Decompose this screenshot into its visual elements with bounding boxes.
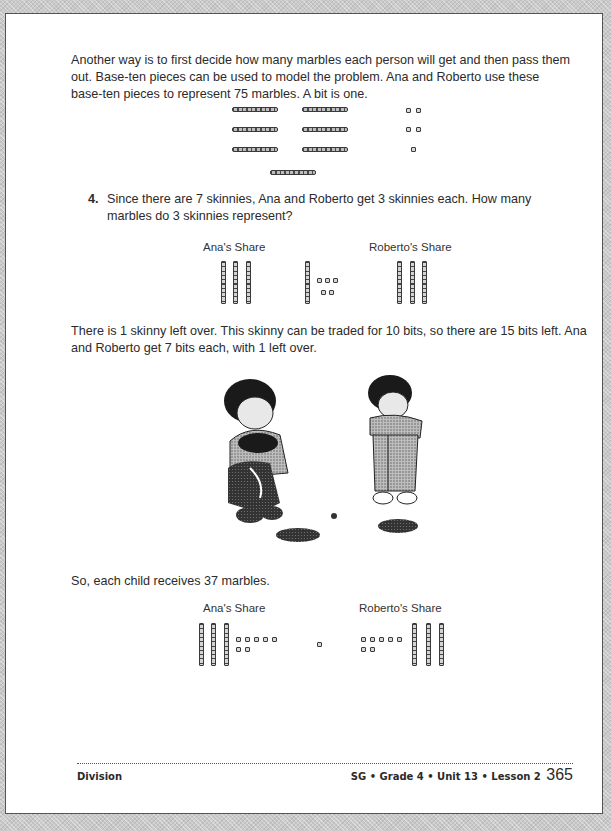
bit-piece	[254, 637, 259, 642]
ana-share-label: Ana's Share	[203, 241, 265, 253]
skinny-piece	[232, 147, 278, 152]
skinny-piece	[270, 170, 316, 175]
bit-piece	[370, 637, 375, 642]
bit-piece	[329, 290, 334, 295]
leftover-bit	[317, 642, 322, 647]
skinny-piece	[221, 261, 226, 304]
roberto-share-label: Roberto's Share	[369, 241, 452, 253]
question-text: Since there are 7 skinnies, Ana and Robe…	[107, 191, 577, 225]
bit-piece	[370, 647, 375, 652]
page-number: 365	[546, 766, 573, 783]
bit-piece	[245, 647, 250, 652]
bit-piece	[245, 637, 250, 642]
skinny-piece	[410, 261, 415, 304]
bit-piece	[236, 647, 241, 652]
skinny-piece	[232, 107, 278, 112]
bit-piece	[406, 127, 411, 132]
bit-piece	[406, 108, 411, 113]
roberto-share-label-2: Roberto's Share	[359, 602, 442, 614]
roberto-figure	[368, 375, 422, 504]
bit-piece	[416, 108, 421, 113]
bit-piece	[361, 647, 366, 652]
skinny-piece	[426, 623, 431, 666]
skinny-piece	[439, 623, 444, 666]
bit-piece	[388, 637, 393, 642]
bit-piece	[272, 637, 277, 642]
footer-course-text: SG • Grade 4 • Unit 13 • Lesson 2	[351, 771, 541, 782]
skinny-piece	[199, 623, 204, 666]
skinny-piece	[422, 261, 427, 304]
skinny-piece	[302, 107, 348, 112]
footer-course-info: SG • Grade 4 • Unit 13 • Lesson 2 365	[351, 766, 573, 784]
skinny-piece	[246, 261, 251, 304]
bit-piece	[397, 637, 402, 642]
skinny-piece	[302, 147, 348, 152]
bit-piece	[416, 127, 421, 132]
bit-piece	[325, 278, 330, 283]
skinny-piece	[233, 261, 238, 304]
ana-figure	[224, 379, 288, 523]
bit-piece	[379, 637, 384, 642]
skinny-piece	[224, 623, 229, 666]
bit-piece	[333, 278, 338, 283]
skinny-piece	[302, 127, 348, 132]
conclusion-paragraph: So, each child receives 37 marbles.	[71, 573, 471, 590]
bit-piece	[361, 637, 366, 642]
footer-divider	[77, 763, 573, 764]
question-number: 4.	[88, 191, 99, 208]
skinny-piece	[305, 261, 310, 304]
marble-piles	[276, 513, 418, 542]
bit-piece	[411, 147, 416, 152]
skinny-piece	[211, 623, 216, 666]
skinny-piece	[397, 261, 402, 304]
bit-piece	[236, 637, 241, 642]
intro-paragraph: Another way is to first decide how many …	[71, 52, 571, 103]
skinny-piece	[412, 623, 417, 666]
children-marbles-illustration	[210, 363, 440, 558]
ana-share-label-2: Ana's Share	[203, 602, 265, 614]
bit-piece	[321, 290, 326, 295]
skinny-piece	[232, 127, 278, 132]
bit-piece	[263, 637, 268, 642]
bit-piece	[317, 278, 322, 283]
explanation-paragraph: There is 1 skinny left over. This skinny…	[71, 323, 591, 357]
footer-section: Division	[77, 771, 122, 782]
